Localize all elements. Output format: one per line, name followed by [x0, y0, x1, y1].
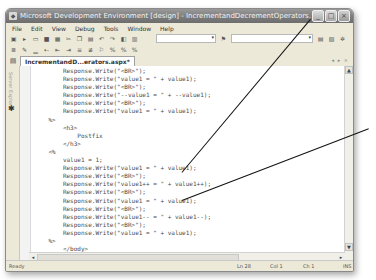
code-line: Response.Write("<BR>");: [34, 172, 211, 180]
uncomment-icon[interactable]: ≢: [87, 46, 94, 53]
toolbox-icon[interactable]: ✱: [8, 104, 15, 113]
title-bar[interactable]: ◆ Microsoft Development Environment [des…: [6, 9, 353, 23]
chevron-down-icon: ▾: [308, 34, 311, 40]
new-project-icon[interactable]: ▣: [10, 35, 17, 42]
outdent-icon[interactable]: ⇤: [54, 46, 61, 53]
toolbox-button-icon[interactable]: ✲: [339, 35, 346, 42]
find-icon[interactable]: ▥: [131, 35, 138, 42]
tab-incrementanddecrementoperators[interactable]: IncrementandD...erators.aspx*: [20, 56, 135, 66]
tab-scroll-controls[interactable]: ◂ ▸ ×: [332, 57, 349, 63]
configuration-combo[interactable]: ▾: [156, 34, 216, 43]
code-line: Response.Write("value1-- = " + value1--)…: [34, 213, 211, 221]
code-line: Response.Write("<BR>");: [34, 67, 211, 75]
status-mode: INS: [343, 263, 351, 269]
menu-edit[interactable]: Edit: [31, 25, 43, 32]
code-line: value1 = 1;: [34, 156, 211, 164]
status-column: Col 1: [270, 263, 283, 269]
vertical-scrollbar[interactable]: ▲ ▼: [344, 66, 353, 261]
document-tabstrip: ▤ IncrementandD...erators.aspx* ◂ ▸ ×: [6, 55, 353, 66]
next-bookmark-icon[interactable]: %: [109, 46, 116, 53]
bookmark-toggle-icon[interactable]: ⚐: [98, 46, 105, 53]
redo-icon[interactable]: ↷: [109, 35, 116, 42]
quick-info-icon[interactable]: ▁: [32, 46, 39, 53]
code-line: Response.Write("<BR>");: [34, 83, 211, 91]
code-text[interactable]: Response.Write("<BR>"); Response.Write("…: [34, 67, 211, 261]
solution-explorer-icon[interactable]: ▤: [317, 35, 324, 42]
code-line: Response.Write("value1 = " + value1);: [34, 107, 211, 115]
menu-file[interactable]: File: [12, 25, 22, 32]
paste-icon[interactable]: ▤: [87, 35, 94, 42]
complete-word-icon[interactable]: ⇠: [43, 46, 50, 53]
window-title: Microsoft Development Environment [desig…: [20, 12, 311, 20]
status-bar: Ready Ln 28 Col 1 Ch 1 INS: [6, 260, 353, 271]
code-line: <h3>: [34, 124, 211, 132]
code-line: Response.Write("value1 = " + value1);: [34, 229, 211, 237]
code-line: </h3>: [34, 140, 211, 148]
copy-icon[interactable]: ❐: [76, 35, 83, 42]
code-line: Postfix: [34, 132, 211, 140]
app-icon: ◆: [9, 12, 17, 20]
indent-icon[interactable]: ⇥: [65, 46, 72, 53]
editor-gutter: [20, 66, 31, 261]
undo-icon[interactable]: ↶: [98, 35, 105, 42]
clear-bookmarks-icon[interactable]: %: [131, 46, 138, 53]
status-text: Ready: [9, 263, 25, 269]
comment-icon[interactable]: ≡: [76, 46, 83, 53]
find-in-files-icon[interactable]: ⚑: [220, 35, 227, 42]
code-line: Response.Write("<BR>");: [34, 188, 211, 196]
code-line: Response.Write("value1 = " + value1);: [34, 75, 211, 83]
code-line: Response.Write("<BR>");: [34, 99, 211, 107]
minimize-button[interactable]: _: [312, 10, 324, 22]
close-button[interactable]: ×: [338, 10, 350, 22]
server-explorer-pin-icon[interactable]: ▤: [8, 56, 18, 66]
workspace: Server Explorer ✱ Response.Write("<BR>")…: [6, 66, 353, 261]
code-line: Response.Write("value1++ = " + value1++)…: [34, 180, 211, 188]
standard-toolbar: ▣ ▸ ▭ ■ ▦ ✂ ❐ ▤ ↶ ↷ ◧ ▥ ▾ ⚑ ▾ ▤ ▧ ✲: [6, 33, 353, 44]
ide-window: ◆ Microsoft Development Environment [des…: [5, 8, 354, 272]
scroll-up-icon[interactable]: ▲: [345, 66, 353, 74]
save-all-icon[interactable]: ▦: [54, 35, 61, 42]
navigate-icon[interactable]: ◧: [120, 35, 127, 42]
code-line: %>: [34, 116, 211, 124]
add-item-icon[interactable]: ▸: [21, 35, 28, 42]
status-char: Ch 1: [303, 263, 314, 269]
menu-help[interactable]: Help: [160, 25, 174, 32]
scroll-down-icon[interactable]: ▼: [345, 243, 353, 251]
solution-combo[interactable]: ▾: [231, 34, 313, 43]
code-line: <%: [34, 148, 211, 156]
text-editor-toolbar: ≣ ✎ ▁ ⇠ ⇤ ⇥ ≡ ≢ ⚐ % % %: [6, 44, 353, 55]
menu-view[interactable]: View: [52, 25, 66, 32]
status-line: Ln 28: [237, 263, 251, 269]
code-line: %>: [34, 237, 211, 245]
save-icon[interactable]: ■: [43, 35, 50, 42]
open-icon[interactable]: ▭: [32, 35, 39, 42]
menu-tools[interactable]: Tools: [104, 25, 119, 32]
menu-debug[interactable]: Debug: [75, 25, 95, 32]
properties-icon[interactable]: ▧: [328, 35, 335, 42]
prev-bookmark-icon[interactable]: %: [120, 46, 127, 53]
side-dock: Server Explorer ✱: [6, 66, 20, 261]
code-line: Response.Write("<BR>");: [34, 221, 211, 229]
menu-window[interactable]: Window: [127, 25, 151, 32]
chevron-down-icon: ▾: [211, 34, 214, 40]
cut-icon[interactable]: ✂: [65, 35, 72, 42]
maximize-button[interactable]: □: [325, 10, 337, 22]
code-line: Response.Write("--value1 = " + --value1)…: [34, 91, 211, 99]
parameter-info-icon[interactable]: ✎: [21, 46, 28, 53]
code-line: Response.Write("<BR>");: [34, 205, 211, 213]
member-list-icon[interactable]: ≣: [10, 46, 17, 53]
